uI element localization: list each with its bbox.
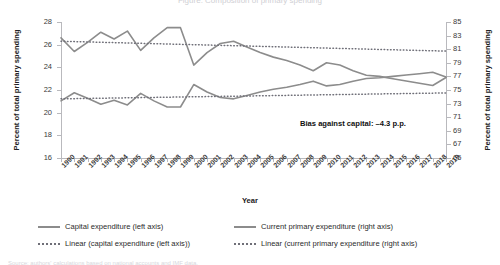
figure-title-text: Figure. Composition of primary spending — [0, 0, 500, 5]
y-tick-right — [447, 63, 451, 64]
annotation-bias-against-capital: Bias against capital: –4.3 p.p. — [300, 119, 406, 128]
legend-item-label: Current primary expenditure (right axis) — [261, 222, 393, 231]
y-tick-label-left: 16 — [44, 154, 52, 162]
y-tick-label-right: 71 — [453, 113, 461, 121]
y-tick-label-right: 73 — [453, 100, 461, 108]
y-tick-label-right: 67 — [453, 140, 461, 148]
y-axis-title-right: Percent of total primary spending — [483, 29, 492, 150]
legend-item[interactable]: Capital expenditure (left axis) — [38, 222, 234, 231]
plot-area — [61, 22, 446, 158]
y-tick-label-left: 18 — [44, 131, 52, 139]
y-tick-label-right: 77 — [453, 72, 461, 80]
legend-item[interactable]: Linear (capital expenditure (left axis)) — [38, 239, 234, 248]
y-tick-label-left: 22 — [44, 86, 52, 94]
series-line — [61, 72, 446, 107]
y-tick-right — [447, 131, 451, 132]
y-tick-right — [447, 90, 451, 91]
legend-item-label: Linear (current primary expenditure (rig… — [261, 239, 417, 248]
y-tick-label-left: 24 — [44, 63, 52, 71]
legend-item-label: Capital expenditure (left axis) — [65, 222, 163, 231]
y-axis-title-left: Percent of total primary spending — [12, 29, 21, 150]
legend-item[interactable]: Linear (current primary expenditure (rig… — [234, 239, 468, 248]
y-tick-label-right: 83 — [453, 32, 461, 40]
figure-caption-cropped: Source: authors' calculations based on n… — [0, 255, 500, 265]
y-tick-label-left: 28 — [44, 18, 52, 26]
legend-dotted-line-icon — [234, 240, 256, 248]
y-tick-label-left: 26 — [44, 41, 52, 49]
y-tick-right — [447, 117, 451, 118]
x-axis-title: Year — [0, 196, 500, 205]
y-tick-right — [447, 76, 451, 77]
y-tick-label-right: 79 — [453, 59, 461, 67]
chart-legend: Capital expenditure (left axis)Current p… — [38, 218, 468, 252]
legend-dotted-line-icon — [38, 240, 60, 248]
y-tick-label-left: 20 — [44, 109, 52, 117]
y-tick-right — [447, 36, 451, 37]
plot-svg — [61, 22, 446, 158]
y-tick-label-right: 85 — [453, 18, 461, 26]
chart-figure: Figure. Composition of primary spending … — [0, 0, 500, 265]
legend-item-label: Linear (capital expenditure (left axis)) — [65, 239, 190, 248]
y-tick-label-right: 75 — [453, 86, 461, 94]
y-tick-right — [447, 49, 451, 50]
y-tick-right — [447, 104, 451, 105]
figure-caption-text: Source: authors' calculations based on n… — [0, 258, 500, 265]
figure-title-cropped: Figure. Composition of primary spending — [0, 0, 500, 9]
legend-solid-line-icon — [234, 223, 256, 231]
y-tick-right — [447, 22, 451, 23]
y-tick-label-right: 69 — [453, 127, 461, 135]
legend-item[interactable]: Current primary expenditure (right axis) — [234, 222, 468, 231]
y-tick-label-right: 81 — [453, 45, 461, 53]
y-tick-right — [447, 144, 451, 145]
legend-solid-line-icon — [38, 223, 60, 231]
